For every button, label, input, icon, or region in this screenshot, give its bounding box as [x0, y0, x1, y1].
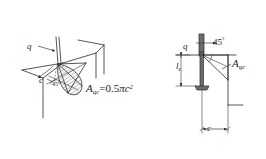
right-area-symbol: A: [232, 57, 239, 69]
formula-exponent: 2: [130, 83, 133, 90]
left-angle-label: 45°: [52, 81, 60, 87]
right-area-label: Aqc: [232, 58, 245, 71]
left-perspective-geometry: [22, 37, 104, 118]
right-angle-label: 45°: [213, 38, 224, 47]
right-load-label: q: [183, 42, 188, 51]
right-angle-unit: °: [222, 37, 224, 43]
right-embedment-label: le: [176, 62, 181, 72]
right-edge-distance-label: c: [207, 124, 211, 133]
left-edge-distance-label: c: [39, 76, 43, 85]
right-area-subscript: qc: [239, 63, 245, 70]
left-angle-unit: °: [58, 81, 60, 87]
breakout-area-formula: Aqc=0.5πc2: [86, 83, 133, 96]
embedment-subscript: e: [179, 66, 181, 72]
left-load-label: q: [27, 42, 32, 51]
right-angle-value: 45: [213, 37, 222, 47]
formula-area-symbol: A: [86, 82, 93, 94]
formula-coefficient: 0.5: [105, 82, 119, 94]
engineering-figure: q c 45° Aqc=0.5πc2 q 45° le Aqc c: [0, 0, 266, 159]
